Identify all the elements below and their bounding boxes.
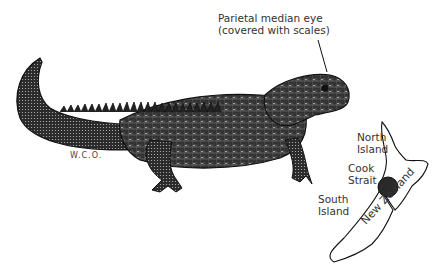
annotation-line-1: Parietal median eye bbox=[218, 12, 330, 24]
south-island-label-line1: South bbox=[318, 193, 349, 205]
south-island-label-line2: Island bbox=[318, 205, 349, 217]
eye bbox=[322, 85, 329, 92]
cook-strait-label-line1: Cook bbox=[348, 162, 377, 174]
north-island-label-line2: Island bbox=[357, 143, 388, 155]
cook-strait-label: Cook Strait bbox=[348, 162, 377, 186]
north-island-label: North Island bbox=[357, 131, 388, 155]
annotation-pointer bbox=[318, 40, 327, 72]
annotation-line-2: (covered with scales) bbox=[218, 24, 330, 36]
front-leg bbox=[285, 138, 312, 184]
cook-strait-label-line2: Strait bbox=[348, 174, 377, 186]
artist-signature: W.C.O. bbox=[70, 150, 102, 162]
dorsal-spines bbox=[60, 102, 221, 112]
parietal-eye-annotation: Parietal median eye (covered with scales… bbox=[218, 12, 330, 36]
tuatara-head bbox=[264, 74, 349, 125]
north-island-label-line1: North bbox=[357, 131, 388, 143]
south-island-label: South Island bbox=[318, 193, 349, 217]
